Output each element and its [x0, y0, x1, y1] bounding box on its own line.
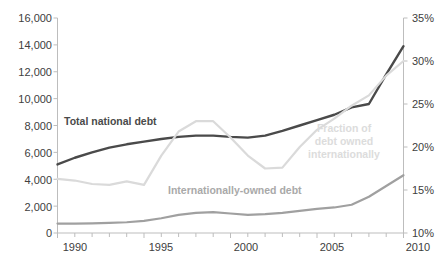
y-axis-right-tick-4: 15%: [412, 184, 444, 196]
y-axis-left-tick-5: 6,000: [2, 147, 52, 159]
y-axis-left-tick-2: 12,000: [2, 66, 52, 78]
x-axis-tick-1990: 1990: [51, 241, 99, 253]
y-axis-right-tick-0: 35%: [412, 12, 444, 24]
chart-container: 16,000 14,000 12,000 10,000 8,000 6,000 …: [0, 0, 444, 266]
y-axis-left-tick-6: 4,000: [2, 174, 52, 186]
y-axis-left-tick-0: 16,000: [2, 12, 52, 24]
x-axis-tick-2005: 2005: [308, 241, 356, 253]
x-axis-tick-2000: 2000: [222, 241, 270, 253]
y-axis-left-tick-7: 2,000: [2, 201, 52, 213]
y-axis-left-tick-1: 14,000: [2, 39, 52, 51]
x-axis-tick-2010: 2010: [394, 241, 442, 253]
fraction-label-line-3: internationally: [298, 148, 390, 161]
y-axis-right-tick-3: 20%: [412, 141, 444, 153]
y-axis-left-tick-3: 10,000: [2, 93, 52, 105]
y-axis-right-tick-5: 10%: [412, 227, 444, 239]
y-axis-left-tick-4: 8,000: [2, 120, 52, 132]
y-axis-right-tick-1: 30%: [412, 55, 444, 67]
total-national-debt-label: Total national debt: [64, 115, 157, 128]
internationally-owned-debt-label: Internationally-owned debt: [168, 184, 302, 197]
fraction-label-line-2: debt owned: [303, 135, 385, 148]
x-axis-tick-1995: 1995: [137, 241, 185, 253]
y-axis-right-tick-2: 25%: [412, 98, 444, 110]
y-axis-left-tick-8: 0: [2, 227, 52, 239]
fraction-label-line-1: Fraction of: [303, 122, 385, 135]
